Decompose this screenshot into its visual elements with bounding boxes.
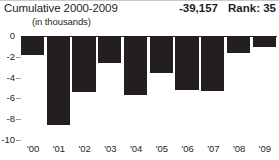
panel-top-divider: [0, 0, 279, 1]
x-axis: '00'01'02'03'04'05'06'07'08'09: [21, 143, 277, 157]
bar-02: [72, 36, 95, 92]
bar-slot: [253, 36, 277, 140]
plot-area: [21, 36, 277, 140]
y-axis-tick-mark: [16, 140, 21, 141]
bar-slot: [175, 36, 199, 140]
bar-slot: [150, 36, 174, 140]
rank-badge: Rank: 35: [228, 2, 276, 14]
bar-07: [201, 36, 224, 91]
bar-03: [98, 36, 121, 63]
x-axis-tick-label: '02: [72, 143, 96, 157]
y-axis-tick-label: -8: [7, 114, 15, 124]
bar-slot: [124, 36, 148, 140]
y-axis-tick: -6: [0, 93, 21, 103]
x-axis-tick-label: '07: [201, 143, 225, 157]
units-subtitle: (in thousands): [32, 16, 91, 27]
cumulative-bar-chart-panel: Cumulative 2000-2009 -39,157 Rank: 35 (i…: [0, 0, 279, 160]
bar-01: [47, 36, 70, 125]
bar-slot: [47, 36, 71, 140]
bar-05: [150, 36, 173, 73]
x-axis-tick-label: '04: [124, 143, 148, 157]
y-axis-tick-label: -10: [1, 135, 15, 145]
y-axis-tick: -8: [0, 114, 21, 124]
y-axis-tick: -2: [0, 52, 21, 62]
bar-slot: [227, 36, 251, 140]
y-axis-tick-label: -4: [7, 73, 15, 83]
x-axis-tick-label: '06: [175, 143, 199, 157]
bar-04: [124, 36, 147, 95]
y-axis-tick: -4: [0, 73, 21, 83]
bar-09: [253, 36, 276, 47]
y-axis: 0-2-4-6-8-10: [0, 36, 21, 140]
bar-08: [227, 36, 250, 53]
cumulative-total-value: -39,157: [179, 2, 218, 14]
x-axis-tick-label: '00: [21, 143, 45, 157]
bar-series: [21, 36, 277, 140]
y-axis-tick-label: -6: [7, 93, 15, 103]
y-axis-tick: 0: [0, 31, 21, 41]
bar-06: [175, 36, 198, 90]
bar-slot: [21, 36, 45, 140]
bar-slot: [201, 36, 225, 140]
y-axis-tick: -10: [0, 135, 21, 145]
page-title: Cumulative 2000-2009: [4, 2, 118, 14]
x-axis-tick-label: '01: [47, 143, 71, 157]
bar-00: [21, 36, 44, 55]
y-axis-tick-label: 0: [10, 31, 15, 41]
x-axis-tick-label: '03: [98, 143, 122, 157]
bar-slot: [72, 36, 96, 140]
x-axis-tick-label: '09: [253, 143, 277, 157]
bar-slot: [98, 36, 122, 140]
x-axis-tick-label: '08: [227, 143, 251, 157]
y-axis-tick-label: -2: [7, 52, 15, 62]
x-axis-tick-label: '05: [150, 143, 174, 157]
